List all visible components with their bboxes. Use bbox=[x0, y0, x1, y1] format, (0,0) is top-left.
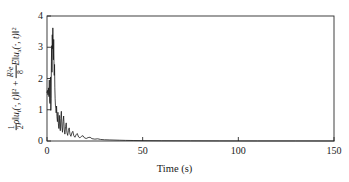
data-series-line bbox=[47, 28, 334, 141]
plot-area bbox=[0, 0, 349, 182]
figure-canvas: 1 2 ρ‖ut(·, t)‖2 + R2e 8 E‖ux(·, t)‖2 0 … bbox=[0, 0, 349, 182]
tick-marks bbox=[47, 16, 334, 141]
axis-frame bbox=[47, 16, 334, 141]
